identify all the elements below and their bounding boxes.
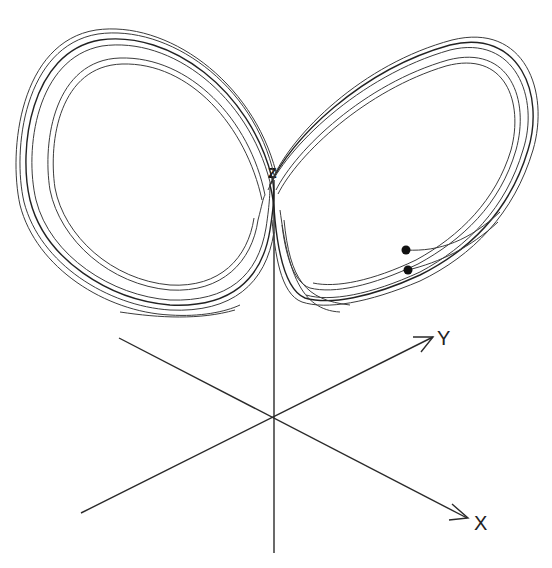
trajectory-tail-2 bbox=[408, 222, 498, 270]
left-lobe bbox=[16, 29, 276, 317]
y-axis bbox=[81, 337, 433, 513]
lorenz-attractor-diagram: X Y Z bbox=[0, 0, 552, 568]
start-point-1 bbox=[402, 246, 411, 255]
start-point-2 bbox=[404, 266, 413, 275]
y-axis-label: Y bbox=[437, 327, 450, 349]
right-lobe bbox=[268, 37, 538, 312]
x-axis-arrowhead bbox=[449, 504, 468, 520]
x-axis bbox=[119, 338, 467, 518]
x-axis-label: X bbox=[474, 512, 487, 534]
trajectory-tail-1 bbox=[406, 212, 500, 250]
